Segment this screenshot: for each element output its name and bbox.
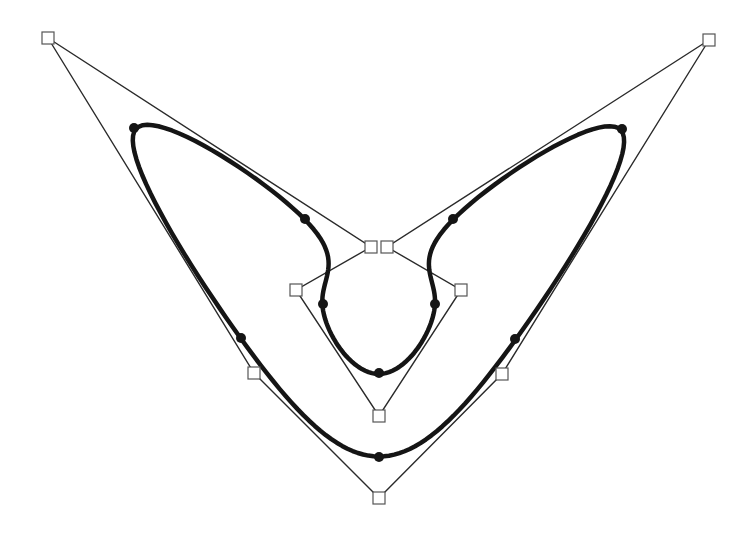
spline-curve-path [133,125,624,457]
curve-point-9 [236,333,246,343]
control-point-handle-4[interactable] [455,284,467,296]
diagram-canvas [0,0,755,537]
curve-point-1 [300,214,310,224]
control-points [42,32,715,504]
control-polygon-edges [48,38,709,498]
curve-point-5 [448,214,458,224]
control-point-handle-6[interactable] [703,34,715,46]
control-point-handle-8[interactable] [373,492,385,504]
control-point-handle-5[interactable] [381,241,393,253]
curve-point-3 [374,368,384,378]
spline-diagram [0,0,755,537]
curve-point-7 [510,334,520,344]
control-point-handle-3[interactable] [373,410,385,422]
curve-point-0 [129,123,139,133]
curve-point-2 [318,299,328,309]
control-polygon [48,38,709,498]
control-point-handle-9[interactable] [248,367,260,379]
control-point-handle-2[interactable] [290,284,302,296]
control-point-handle-1[interactable] [365,241,377,253]
curve-point-4 [430,299,440,309]
control-point-handle-7[interactable] [496,368,508,380]
spline-curve [133,125,624,457]
control-point-handle-0[interactable] [42,32,54,44]
curve-point-6 [617,124,627,134]
curve-point-8 [374,452,384,462]
